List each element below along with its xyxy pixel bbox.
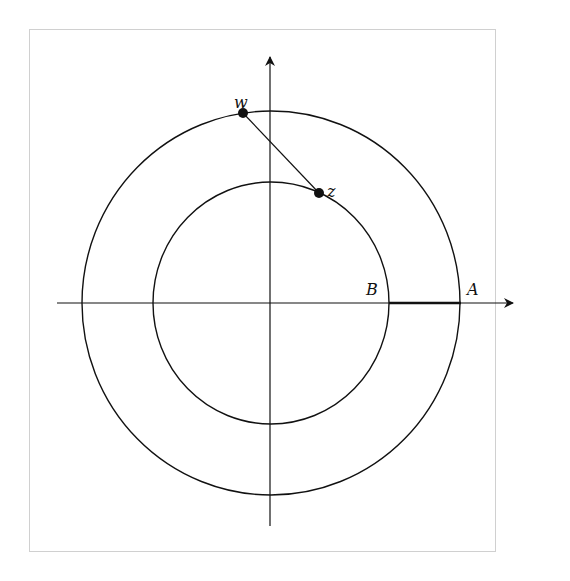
point-z xyxy=(314,188,324,198)
label-B: B xyxy=(365,280,378,299)
label-w: w xyxy=(234,93,248,112)
label-z: z xyxy=(326,182,336,201)
segment-wz xyxy=(243,113,319,193)
label-A: A xyxy=(465,280,479,299)
annulus-diagram: w z B A xyxy=(0,0,570,581)
